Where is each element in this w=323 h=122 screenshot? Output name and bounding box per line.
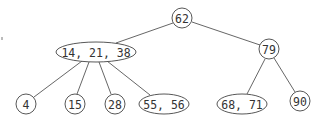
tree-node-n28: 28 bbox=[105, 94, 125, 114]
node-label: 79 bbox=[262, 43, 276, 57]
nodes-layer: 6214, 21, 38794152855, 5668, 7190 bbox=[16, 8, 310, 114]
edge-n14_21_38-n55_56 bbox=[107, 61, 150, 95]
tree-node-n79: 79 bbox=[259, 39, 279, 59]
tree-node-n55_56: 55, 56 bbox=[139, 94, 189, 114]
tree-node-n4: 4 bbox=[16, 94, 36, 114]
tree-node-n68_71: 68, 71 bbox=[217, 94, 267, 114]
tree-node-n62: 62 bbox=[172, 8, 192, 28]
tree-node-n90: 90 bbox=[290, 91, 310, 111]
tree-node-n14_21_38: 14, 21, 38 bbox=[56, 42, 136, 62]
tree-diagram: 6214, 21, 38794152855, 5668, 7190 bbox=[0, 0, 323, 122]
node-label: 90 bbox=[293, 95, 307, 109]
edge-n14_21_38-n28 bbox=[99, 62, 111, 94]
node-label: 15 bbox=[68, 98, 82, 112]
node-label: 4 bbox=[23, 98, 30, 112]
node-label: 28 bbox=[108, 98, 122, 112]
edge-n79-n68_71 bbox=[247, 59, 265, 94]
edge-n62-n14_21_38 bbox=[116, 23, 173, 43]
node-label: 55, 56 bbox=[143, 98, 185, 112]
edge-n14_21_38-n4 bbox=[34, 61, 82, 97]
edge-n14_21_38-n15 bbox=[77, 62, 89, 94]
edge-n62-n79 bbox=[192, 22, 260, 45]
node-label: 68, 71 bbox=[221, 98, 263, 112]
node-label: 62 bbox=[175, 12, 189, 26]
tree-node-n15: 15 bbox=[65, 94, 85, 114]
stray-mark bbox=[1, 37, 3, 40]
node-label: 14, 21, 38 bbox=[61, 46, 130, 60]
edge-n79-n90 bbox=[274, 58, 295, 92]
